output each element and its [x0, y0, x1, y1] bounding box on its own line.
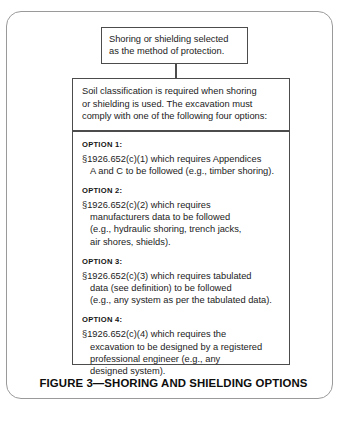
option-block-1: OPTION 1: §1926.652(c)(1) which requires…	[82, 140, 281, 177]
option-2-line-3: (e.g., hydraulic shoring, trench jacks,	[82, 223, 281, 235]
option-block-2: OPTION 2: §1926.652(c)(2) which requires…	[82, 186, 281, 248]
flowchart-top-box: Shoring or shielding selected as the met…	[101, 27, 248, 64]
option-2-line-2: manufacturers data to be followed	[82, 211, 281, 223]
intro-line-2: or shielding is used. The excavation mus…	[82, 98, 281, 111]
intro-line-1: Soil classification is required when sho…	[82, 85, 281, 98]
top-box-line-2: as the method of protection.	[109, 45, 247, 57]
intro-line-3: comply with one of the following four op…	[82, 110, 281, 123]
figure-flowchart: Shoring or shielding selected as the met…	[0, 0, 347, 423]
flowchart-main-box: Soil classification is required when sho…	[72, 78, 290, 365]
top-box-line-1: Shoring or shielding selected	[109, 33, 247, 45]
option-2-line-1: §1926.652(c)(2) which requires	[82, 199, 281, 211]
option-1-line-2: A and C to be followed (e.g., timber sho…	[82, 165, 281, 177]
option-4-label: OPTION 4:	[82, 315, 281, 325]
figure-caption: FIGURE 3—SHORING AND SHIELDING OPTIONS	[0, 377, 347, 389]
option-4-line-2: excavation to be designed by a registere…	[82, 341, 281, 353]
option-3-line-1: §1926.652(c)(3) which requires tabulated	[82, 270, 281, 282]
option-2-line-4: air shores, shields).	[82, 236, 281, 248]
option-3-line-3: (e.g., any system as per the tabulated d…	[82, 294, 281, 306]
option-4-line-3: professional engineer (e.g., any	[82, 353, 281, 365]
option-2-label: OPTION 2:	[82, 186, 281, 196]
option-4-line-1: §1926.652(c)(4) which requires the	[82, 328, 281, 340]
option-3-label: OPTION 3:	[82, 257, 281, 267]
option-4-line-4: designed system).	[82, 365, 281, 377]
option-3-line-2: data (see definition) to be followed	[82, 282, 281, 294]
option-1-label: OPTION 1:	[82, 140, 281, 150]
option-block-3: OPTION 3: §1926.652(c)(3) which requires…	[82, 257, 281, 307]
options-list: OPTION 1: §1926.652(c)(1) which requires…	[73, 132, 289, 378]
flowchart-connector-line	[175, 64, 177, 79]
option-1-line-1: §1926.652(c)(1) which requires Appendice…	[82, 153, 281, 165]
main-box-intro: Soil classification is required when sho…	[73, 79, 289, 129]
option-block-4: OPTION 4: §1926.652(c)(4) which requires…	[82, 315, 281, 377]
